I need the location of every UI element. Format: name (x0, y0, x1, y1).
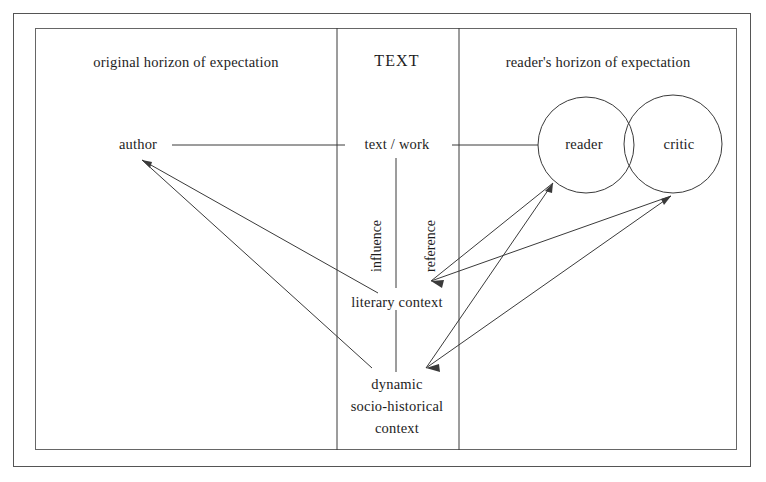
diagram-canvas: original horizon of expectation TEXT rea… (0, 0, 766, 482)
edge-critic-dynamiccontext (426, 196, 671, 368)
node-dynamic-context-line-1: dynamic (371, 376, 422, 393)
edge-label-influence: influence (369, 220, 385, 272)
edge-reader-literarycontext (431, 183, 553, 281)
column-title-center: TEXT (374, 52, 420, 71)
edge-literarycontext-author (142, 160, 378, 293)
node-reader: reader (565, 136, 602, 153)
node-literary-context: literary context (351, 294, 442, 311)
node-author: author (119, 136, 157, 153)
arrowhead-author (142, 160, 152, 168)
node-critic: critic (664, 136, 695, 153)
column-title-left: original horizon of expectation (93, 54, 278, 71)
edge-label-reference: reference (423, 220, 439, 272)
edge-critic-literarycontext (431, 196, 671, 281)
node-dynamic-context-line-3: context (375, 420, 419, 437)
arrowhead-literarycontext (431, 280, 444, 288)
node-text-work: text / work (364, 136, 429, 153)
node-dynamic-context-line-2: socio-historical (351, 398, 444, 415)
column-title-right: reader's horizon of expectation (506, 54, 691, 71)
